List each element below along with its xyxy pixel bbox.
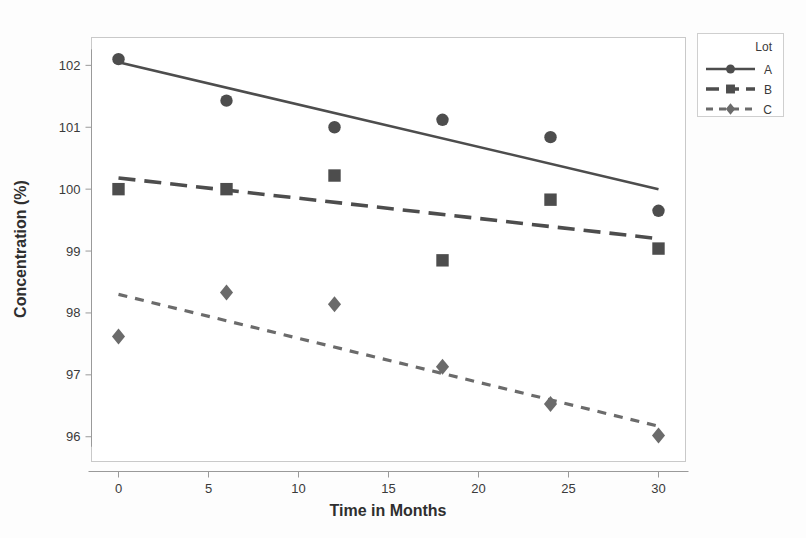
legend-label-a: A [764, 63, 772, 77]
x-tick-label: 0 [115, 481, 122, 496]
marker-circle [112, 53, 124, 65]
y-tick-label: 98 [66, 305, 80, 320]
x-tick-label: 5 [205, 481, 212, 496]
marker-circle [436, 114, 448, 126]
x-tick-label: 20 [471, 481, 485, 496]
legend-label-b: B [764, 83, 772, 97]
marker-square [112, 183, 124, 195]
marker-square [726, 85, 735, 94]
y-tick-label: 97 [66, 367, 80, 382]
y-tick-label: 102 [59, 58, 81, 73]
plot-area-frame [92, 38, 686, 462]
marker-circle [544, 131, 556, 143]
marker-circle [328, 121, 340, 133]
marker-square [544, 193, 556, 205]
x-tick-label: 25 [561, 481, 575, 496]
legend: Lot ABC [698, 34, 784, 117]
y-axis-ticks: 96979899100101102 [59, 49, 92, 446]
y-axis-title: Concentration (%) [12, 180, 29, 318]
legend-label-c: C [763, 103, 772, 117]
marker-circle [220, 94, 232, 106]
marker-square [436, 254, 448, 266]
y-tick-label: 96 [66, 429, 80, 444]
marker-square [652, 242, 664, 254]
marker-circle [726, 65, 735, 74]
y-tick-label: 99 [66, 244, 80, 259]
legend-title: Lot [755, 40, 772, 54]
chart-container: 96979899100101102 051015202530 Time in M… [0, 0, 806, 538]
x-tick-label: 15 [381, 481, 395, 496]
marker-square [220, 183, 232, 195]
x-tick-label: 10 [291, 481, 305, 496]
marker-square [328, 169, 340, 181]
y-tick-label: 100 [59, 182, 81, 197]
marker-circle [652, 205, 664, 217]
chart-svg: 96979899100101102 051015202530 Time in M… [0, 0, 806, 538]
x-tick-label: 30 [651, 481, 665, 496]
y-tick-label: 101 [59, 120, 81, 135]
x-axis-ticks: 051015202530 [89, 472, 689, 496]
x-axis-title: Time in Months [329, 502, 446, 519]
